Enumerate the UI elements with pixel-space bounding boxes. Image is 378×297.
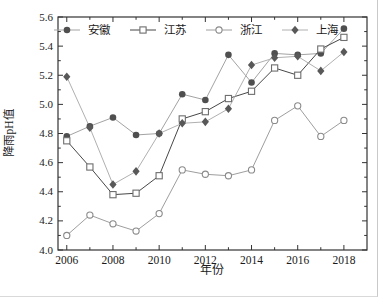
data-point-anhui: [248, 79, 255, 86]
legend-item-anhui: 安徽: [54, 23, 111, 36]
data-point-jiangsu: [202, 109, 208, 115]
data-point-shanghai: [340, 48, 347, 57]
data-point-zhejiang: [87, 212, 93, 218]
ph-line-chart: 4.04.24.44.64.85.05.25.45.62006200820102…: [0, 0, 378, 297]
data-point-zhejiang: [295, 103, 301, 109]
data-point-zhejiang: [318, 133, 324, 139]
y-tick-label: 4.2: [39, 214, 53, 226]
data-point-jiangsu: [225, 95, 231, 101]
y-tick-label: 5.0: [39, 98, 53, 110]
data-point-jiangsu: [341, 34, 347, 40]
legend-item-jiangsu: 江苏: [130, 24, 186, 36]
data-point-zhejiang: [156, 210, 162, 216]
legend-marker-shanghai: [291, 26, 298, 35]
data-point-zhejiang: [248, 167, 254, 173]
data-point-zhejiang: [225, 173, 231, 179]
plot-area: 4.04.24.44.64.85.05.25.45.62006200820102…: [39, 11, 367, 266]
data-point-jiangsu: [64, 138, 70, 144]
legend-label-zhejiang: 浙江: [240, 24, 263, 36]
data-point-anhui: [179, 91, 186, 98]
x-tick-label: 2018: [332, 254, 355, 266]
data-point-zhejiang: [64, 232, 70, 238]
data-point-shanghai: [63, 72, 70, 81]
data-point-jiangsu: [272, 65, 278, 71]
y-tick-label: 4.8: [39, 127, 53, 139]
x-axis-label: 年份: [200, 263, 224, 277]
data-point-zhejiang: [272, 117, 278, 123]
data-point-anhui: [341, 25, 348, 32]
x-tick-label: 2008: [101, 254, 124, 266]
data-point-shanghai: [156, 129, 163, 138]
data-point-anhui: [133, 132, 140, 139]
x-tick-label: 2016: [286, 254, 309, 266]
y-tick-label: 4.4: [39, 185, 53, 197]
data-point-zhejiang: [133, 228, 139, 234]
data-point-jiangsu: [87, 164, 93, 170]
data-point-anhui: [225, 52, 232, 59]
x-tick-label: 2014: [240, 254, 263, 266]
legend-label-anhui: 安徽: [88, 23, 111, 36]
data-point-jiangsu: [133, 190, 139, 196]
data-point-jiangsu: [295, 72, 301, 78]
y-tick-label: 5.2: [39, 69, 53, 81]
legend-label-jiangsu: 江苏: [164, 24, 186, 36]
y-tick-label: 4.0: [39, 244, 53, 256]
legend-item-shanghai: 上海: [282, 23, 339, 36]
legend-marker-jiangsu: [140, 27, 146, 33]
legend-label-shanghai: 上海: [316, 23, 339, 36]
data-point-jiangsu: [248, 88, 254, 94]
y-tick-label: 4.6: [39, 156, 53, 168]
data-point-shanghai: [248, 61, 255, 70]
data-point-jiangsu: [318, 46, 324, 52]
data-point-zhejiang: [341, 117, 347, 123]
data-point-shanghai: [132, 167, 139, 176]
data-point-jiangsu: [110, 192, 116, 198]
data-point-shanghai: [202, 118, 209, 127]
y-tick-label: 5.6: [39, 11, 53, 23]
data-point-zhejiang: [202, 171, 208, 177]
data-point-shanghai: [225, 104, 232, 113]
data-point-zhejiang: [110, 221, 116, 227]
legend-marker-zhejiang: [216, 27, 222, 33]
x-tick-label: 2006: [55, 254, 78, 266]
data-point-anhui: [202, 97, 209, 104]
y-axis-label: 降雨pH值: [2, 108, 16, 156]
ph-trend-figure: 4.04.24.44.64.85.05.25.45.62006200820102…: [0, 0, 378, 297]
data-point-shanghai: [109, 180, 116, 189]
data-point-zhejiang: [179, 167, 185, 173]
data-point-shanghai: [317, 67, 324, 76]
x-tick-label: 2010: [148, 254, 171, 266]
data-point-jiangsu: [156, 173, 162, 179]
legend-item-zhejiang: 浙江: [206, 24, 263, 36]
data-point-anhui: [110, 114, 117, 121]
legend-marker-anhui: [64, 27, 71, 34]
y-tick-label: 5.4: [39, 40, 53, 52]
